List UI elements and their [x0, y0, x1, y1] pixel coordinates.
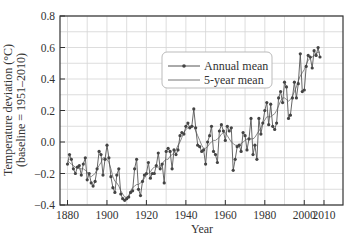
annual-data-point — [204, 163, 207, 166]
annual-data-point — [261, 122, 264, 125]
annual-data-point — [269, 103, 272, 106]
annual-data-point — [182, 133, 185, 136]
x-tick-label: 1900 — [95, 209, 118, 221]
legend-annual-marker — [182, 64, 186, 68]
annual-data-point — [242, 131, 245, 134]
annual-data-point — [247, 137, 250, 140]
annual-data-point — [169, 150, 172, 153]
annual-data-point — [139, 194, 142, 197]
annual-data-point — [253, 144, 256, 147]
annual-data-point — [117, 167, 120, 170]
annual-data-point — [119, 192, 122, 195]
annual-data-point — [216, 161, 219, 164]
annual-data-point — [208, 134, 211, 137]
x-tick-label: 1960 — [214, 209, 237, 221]
annual-data-point — [277, 96, 280, 99]
annual-data-point — [224, 139, 227, 142]
annual-data-point — [135, 158, 138, 161]
annual-data-point — [198, 145, 201, 148]
annual-data-point — [291, 96, 294, 99]
annual-data-point — [309, 55, 312, 58]
annual-data-point — [103, 158, 106, 161]
annual-data-point — [163, 181, 166, 184]
temperature-chart: Annual mean 5-year mean −0.4−0.20.00.20.… — [0, 0, 350, 238]
x-tick-label: 1940 — [174, 209, 197, 221]
annual-data-point — [184, 125, 187, 128]
annual-data-point — [157, 151, 160, 154]
annual-data-point — [311, 66, 314, 69]
annual-data-point — [105, 144, 108, 147]
annual-data-point — [245, 148, 248, 151]
annual-data-point — [88, 172, 91, 175]
annual-data-point — [153, 172, 156, 175]
annual-data-point — [263, 109, 266, 112]
annual-data-point — [295, 96, 298, 99]
annual-data-point — [257, 117, 260, 120]
annual-data-point — [275, 122, 278, 125]
annual-data-point — [299, 52, 302, 55]
annual-data-point — [212, 150, 215, 153]
annual-data-point — [234, 158, 237, 161]
annual-data-point — [194, 126, 197, 129]
annual-data-point — [145, 172, 148, 175]
annual-data-point — [297, 82, 300, 85]
annual-data-point — [206, 140, 209, 143]
y-tick-label: 0.8 — [41, 10, 56, 22]
annual-data-point — [115, 174, 118, 177]
annual-data-point — [281, 101, 284, 104]
annual-data-point — [255, 158, 258, 161]
legend-annual-label: Annual mean — [204, 59, 268, 73]
annual-data-point — [99, 153, 102, 156]
annual-data-point — [172, 148, 175, 151]
y-axis-title: Temperature deviation (°C) — [1, 44, 15, 176]
annual-data-point — [238, 144, 241, 147]
annual-data-point — [220, 123, 223, 126]
annual-data-point — [147, 161, 150, 164]
annual-data-point — [78, 164, 81, 167]
x-tick-label: 1880 — [56, 209, 79, 221]
y-tick-label: −0.4 — [34, 199, 55, 211]
legend-five-year-label: 5-year mean — [204, 73, 264, 87]
grid-lines — [60, 16, 343, 205]
annual-data-point — [113, 191, 116, 194]
annual-data-point — [279, 90, 282, 93]
annual-data-point — [228, 129, 231, 132]
annual-data-point — [161, 163, 164, 166]
annual-data-point — [149, 177, 152, 180]
annual-data-point — [226, 125, 229, 128]
annual-data-point — [273, 128, 276, 131]
annual-data-point — [66, 163, 69, 166]
x-tick-label: 1920 — [135, 209, 158, 221]
annual-data-point — [72, 167, 75, 170]
y-tick-label: 0.4 — [41, 73, 56, 85]
annual-data-point — [94, 180, 97, 183]
annual-data-point — [174, 153, 177, 156]
x-axis-title: Year — [191, 222, 213, 236]
annual-data-point — [232, 169, 235, 172]
legend: Annual mean 5-year mean — [162, 52, 272, 88]
annual-data-point — [74, 172, 77, 175]
annual-data-point — [313, 49, 316, 52]
annual-data-point — [98, 150, 101, 153]
annual-data-point — [92, 185, 95, 188]
annual-data-point — [165, 150, 168, 153]
annual-data-point — [159, 167, 162, 170]
annual-data-point — [176, 148, 179, 151]
annual-data-point — [167, 147, 170, 150]
annual-data-point — [109, 175, 112, 178]
annual-data-point — [155, 164, 158, 167]
annual-data-point — [249, 117, 252, 120]
annual-data-point — [171, 167, 174, 170]
annual-data-point — [82, 163, 85, 166]
annual-data-point — [271, 125, 274, 128]
annual-data-point — [131, 189, 134, 192]
annual-data-point — [202, 148, 205, 151]
annual-data-point — [240, 150, 243, 153]
annual-data-point — [251, 153, 254, 156]
annual-data-point — [86, 178, 89, 181]
annual-data-point — [90, 181, 93, 184]
annual-data-point — [192, 107, 195, 110]
annual-data-point — [265, 101, 268, 104]
y-axis-subtitle: (baseline = 1951–2010) — [14, 53, 28, 167]
annual-data-point — [137, 188, 140, 191]
